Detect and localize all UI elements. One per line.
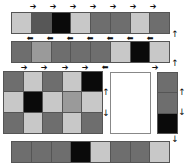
tile-mid	[4, 72, 24, 92]
tile-black	[131, 42, 151, 62]
arrow-up-icon: ↑	[178, 88, 186, 96]
strip-top	[11, 12, 170, 34]
tile-mid	[150, 13, 169, 33]
arrow-right-icon: ➔	[60, 64, 70, 72]
arrow-left-icon: ⬅	[105, 35, 115, 43]
tile-light	[111, 42, 131, 62]
tile-light	[150, 42, 169, 62]
tile-mid	[91, 13, 111, 33]
arrow-right-icon: ➔	[128, 3, 138, 11]
tile-light	[63, 72, 83, 92]
tile-light	[91, 142, 111, 162]
tile-light	[82, 92, 102, 112]
tile-black	[24, 92, 44, 112]
strip-second	[11, 41, 170, 63]
tile-light	[4, 92, 24, 112]
tile-light	[71, 13, 91, 33]
tile-light	[63, 113, 83, 133]
tile-mid	[32, 142, 52, 162]
blank-panel	[110, 72, 151, 134]
tile-black	[71, 142, 91, 162]
tile-black	[52, 13, 72, 33]
arrow-right-icon: ➔	[88, 3, 98, 11]
tile-midlight	[32, 42, 52, 62]
tile-light	[12, 13, 32, 33]
tile-light	[131, 13, 151, 33]
tile-mid	[158, 73, 177, 93]
arrow-right-icon: ➔	[39, 64, 49, 72]
arrow-right-icon: ➔	[108, 3, 118, 11]
arrow-left-icon: ⬅	[145, 35, 155, 43]
tile-mid	[12, 42, 32, 62]
arrow-left-icon: ⬅	[25, 35, 35, 43]
tile-mid	[52, 42, 72, 62]
tile-mid	[91, 42, 111, 62]
arrow-right-icon: ➔	[19, 64, 29, 72]
arrow-left-icon: ⬅	[85, 35, 95, 43]
tile-mid	[52, 142, 72, 162]
column-3	[157, 72, 178, 134]
tile-light	[150, 142, 169, 162]
arrow-right-icon: ➔	[80, 64, 90, 72]
tile-mid	[82, 113, 102, 133]
tile-mid	[111, 142, 131, 162]
arrow-right-icon: ➔	[28, 3, 38, 11]
tile-mid	[111, 13, 131, 33]
arrow-left-icon: ⬅	[125, 35, 135, 43]
tile-dark	[32, 13, 52, 33]
tile-light	[24, 113, 44, 133]
tile-light	[24, 72, 44, 92]
arrow-up-icon: ↑	[171, 30, 179, 38]
arrow-up-icon: ↑	[171, 59, 179, 67]
tile-mid	[158, 93, 177, 113]
tile-mid	[131, 142, 151, 162]
tile-mid	[43, 72, 63, 92]
arrow-left-icon: ⬅	[45, 35, 55, 43]
arrow-right-icon: ➔	[148, 3, 158, 11]
arrow-up-icon: ↑	[102, 88, 110, 96]
arrow-down-icon: ↓	[102, 109, 110, 117]
strip-bottom	[11, 141, 170, 163]
arrow-down-icon: ↓	[171, 135, 179, 143]
grid-5x3	[3, 71, 103, 134]
tile-light	[43, 92, 63, 112]
arrow-right-icon: ➔	[68, 3, 78, 11]
arrow-left-icon: ⬅	[100, 64, 110, 72]
tile-mid	[4, 113, 24, 133]
arrow-left-icon: ⬅	[65, 35, 75, 43]
tile-black	[158, 114, 177, 133]
tile-black	[82, 72, 102, 92]
tile-mid	[71, 42, 91, 62]
tile-midlight	[63, 92, 83, 112]
tile-mid	[43, 113, 63, 133]
arrow-right-icon: ➔	[48, 3, 58, 11]
arrow-right-icon: ➔	[150, 64, 160, 72]
arrow-down-icon: ↓	[178, 108, 186, 116]
tile-mid	[12, 142, 32, 162]
